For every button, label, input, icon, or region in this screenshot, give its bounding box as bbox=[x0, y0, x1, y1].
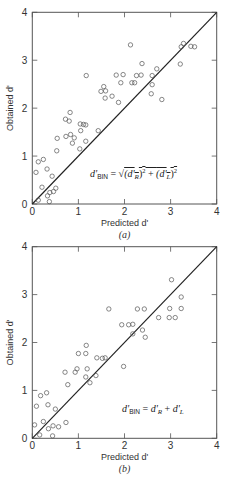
data-point bbox=[140, 328, 144, 332]
data-point bbox=[126, 323, 130, 327]
data-point bbox=[103, 356, 107, 360]
data-point bbox=[84, 375, 88, 379]
plot-area: 0123401234Predicted d'Obtained d'(b) bbox=[5, 241, 220, 475]
x-tick-label: 2 bbox=[122, 440, 128, 451]
data-point bbox=[179, 295, 183, 299]
data-point bbox=[84, 343, 88, 347]
y-tick-label: 4 bbox=[22, 241, 28, 252]
data-point bbox=[107, 307, 111, 311]
formula-l: d' bbox=[173, 403, 180, 414]
data-point bbox=[94, 373, 98, 377]
data-point bbox=[142, 307, 146, 311]
data-point bbox=[50, 434, 54, 438]
data-point bbox=[64, 420, 68, 424]
data-point bbox=[32, 423, 36, 427]
data-point bbox=[53, 407, 57, 411]
data-point bbox=[85, 367, 89, 371]
x-tick-label: 0 bbox=[30, 440, 36, 451]
panel-caption: (b) bbox=[119, 463, 131, 475]
data-point bbox=[169, 278, 173, 282]
y-tick-label: 1 bbox=[22, 385, 28, 396]
data-point bbox=[66, 382, 70, 386]
data-point bbox=[131, 322, 135, 326]
formula-plus: + bbox=[162, 403, 173, 414]
data-point bbox=[38, 393, 42, 397]
data-point bbox=[84, 351, 88, 355]
data-point bbox=[121, 364, 125, 368]
x-tick-label: 4 bbox=[214, 440, 220, 451]
data-point bbox=[37, 433, 41, 437]
y-tick-label: 0 bbox=[22, 433, 28, 444]
formula-b: d'BIN = d'R + d'L bbox=[122, 403, 184, 416]
data-point bbox=[120, 323, 124, 327]
data-point bbox=[167, 315, 171, 319]
y-tick-label: 3 bbox=[22, 289, 28, 300]
data-point bbox=[156, 315, 160, 319]
y-axis-label: Obtained d' bbox=[5, 319, 15, 365]
data-point bbox=[46, 427, 50, 431]
formula-eq: = bbox=[140, 403, 151, 414]
data-point bbox=[41, 419, 45, 423]
data-point bbox=[75, 367, 79, 371]
data-point bbox=[143, 335, 147, 339]
data-point bbox=[76, 351, 80, 355]
data-point bbox=[34, 404, 38, 408]
y-tick-label: 2 bbox=[22, 337, 28, 348]
formula-l-sub: L bbox=[180, 408, 184, 416]
data-point bbox=[135, 307, 139, 311]
data-point bbox=[167, 306, 171, 310]
data-point bbox=[56, 425, 60, 429]
x-tick-label: 3 bbox=[168, 440, 174, 451]
data-point bbox=[51, 424, 55, 428]
data-point bbox=[46, 403, 50, 407]
x-axis-label: Predicted d' bbox=[101, 452, 149, 462]
data-point bbox=[44, 391, 48, 395]
scatter-plot-b: 0123401234Predicted d'Obtained d'(b) bbox=[0, 0, 227, 481]
data-point bbox=[73, 370, 77, 374]
data-point bbox=[63, 370, 67, 374]
data-point bbox=[95, 356, 99, 360]
formula-r: d' bbox=[151, 403, 158, 414]
data-point bbox=[88, 381, 92, 385]
data-point bbox=[179, 306, 183, 310]
formula-lhs-sub: BIN bbox=[129, 408, 140, 415]
x-tick-label: 1 bbox=[76, 440, 82, 451]
data-point bbox=[173, 315, 177, 319]
chart-panel-b: 0123401234Predicted d'Obtained d'(b) d'B… bbox=[0, 0, 227, 481]
